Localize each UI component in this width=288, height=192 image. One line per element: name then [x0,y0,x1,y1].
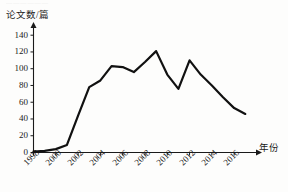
data-series-line [34,51,246,152]
x-axis-arrow [256,150,262,156]
y-axis-arrow [31,22,37,28]
chart-figure: ▁▁▁▁▁▁ 论文数/篇 年份 020406080100120140 19982… [0,0,288,192]
chart-plot-area [0,0,288,192]
axes-group [31,22,263,156]
